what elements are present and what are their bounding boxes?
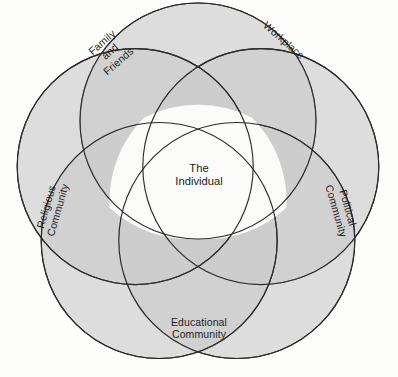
venn-label-educational-community: Educational Community (152, 316, 246, 341)
venn-label-the-individual: The Individual (152, 162, 246, 188)
venn-diagram: Family and Friends Workplace Political C… (0, 0, 398, 377)
